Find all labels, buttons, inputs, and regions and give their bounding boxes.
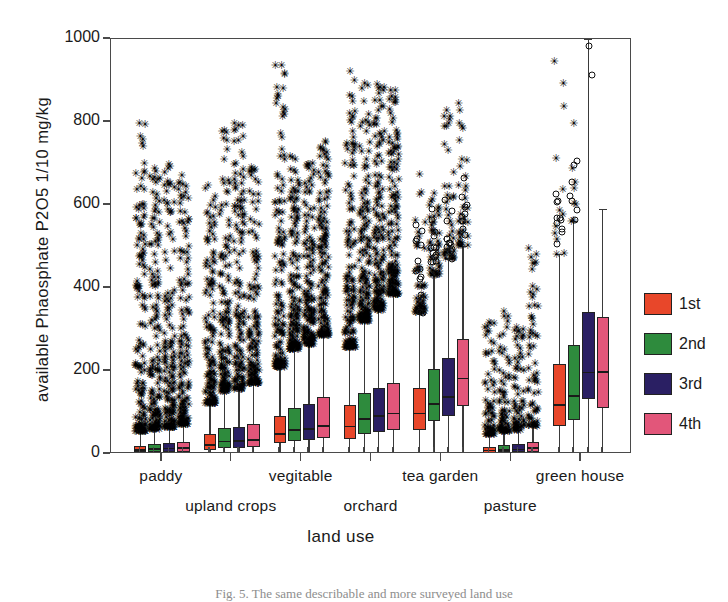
outlier-star: ✳	[303, 162, 312, 168]
median-line	[413, 413, 426, 415]
plot-canvas: ✳✳✳✳✳✳✳✳✳✳✳✳✳✳✳✳✳✳✳✳✳✳✳✳✳✳✳✳✳✳✳✳✳✳✳✳✳✳✳✳…	[111, 39, 630, 452]
outlier-star: ✳	[217, 252, 226, 258]
whisker-upper	[559, 255, 560, 364]
outlier-star: ✳	[221, 310, 230, 316]
outlier-star: ✳	[510, 402, 519, 408]
median-line	[568, 395, 581, 397]
box-upland-crops-3rd	[233, 427, 246, 448]
outlier-star: ✳	[237, 150, 246, 156]
x-tick-mark	[300, 453, 301, 461]
outlier-star: ✳	[179, 332, 188, 338]
outlier-star: ✳	[183, 386, 192, 392]
outlier-star: ✳	[358, 312, 367, 318]
median-line	[527, 447, 540, 449]
outlier-circle	[418, 227, 425, 234]
outlier-star: ✳	[275, 329, 284, 335]
legend-item-4th[interactable]: 4th	[644, 412, 706, 436]
outlier-circle	[432, 228, 439, 235]
outlier-star: ✳	[229, 248, 238, 254]
y-tick-mark	[103, 286, 110, 287]
outlier-star: ✳	[358, 285, 367, 291]
outlier-star: ✳	[274, 230, 283, 236]
outlier-star: ✳	[235, 172, 244, 178]
outlier-star: ✳	[160, 250, 169, 256]
outlier-star: ✳	[359, 216, 368, 222]
outlier-star: ✳	[234, 322, 243, 328]
outlier-star: ✳	[217, 203, 226, 209]
outlier-star: ✳	[163, 166, 172, 172]
outlier-star: ✳	[153, 269, 162, 275]
median-line	[358, 418, 371, 420]
outlier-star: ✳	[523, 387, 532, 393]
outlier-star: ✳	[232, 308, 241, 314]
box-tea-garden-3rd	[442, 358, 455, 416]
outlier-circle	[428, 206, 435, 213]
outlier-star: ✳	[162, 189, 171, 195]
outlier-circle	[461, 174, 468, 181]
x-minor-tick	[278, 447, 279, 453]
outlier-star: ✳	[135, 203, 144, 209]
outlier-star: ✳	[219, 157, 228, 163]
outlier-star: ✳	[250, 233, 259, 239]
outlier-star: ✳	[291, 157, 300, 163]
outlier-star: ✳	[278, 105, 287, 111]
x-minor-tick	[223, 447, 224, 453]
outlier-star: ✳	[289, 168, 298, 174]
outlier-star: ✳	[374, 173, 383, 179]
outlier-circle	[418, 273, 425, 280]
x-tick-label-green-house: green house	[536, 467, 624, 485]
outlier-star: ✳	[346, 340, 355, 346]
outlier-star: ✳	[497, 351, 506, 357]
outlier-star: ✳	[372, 261, 381, 267]
x-minor-tick	[307, 447, 308, 453]
outlier-star: ✳	[316, 330, 325, 336]
outlier-circle	[461, 232, 468, 239]
outlier-star: ✳	[161, 258, 170, 264]
y-tick-mark	[103, 37, 110, 38]
outlier-star: ✳	[254, 222, 263, 228]
outlier-star: ✳	[485, 402, 494, 408]
legend-item-2nd[interactable]: 2nd	[644, 332, 706, 356]
outlier-star: ✳	[454, 121, 463, 127]
outlier-star: ✳	[345, 118, 354, 124]
outlier-star: ✳	[314, 197, 323, 203]
legend-item-1st[interactable]: 1st	[644, 292, 706, 316]
whisker-upper	[378, 311, 379, 389]
outlier-star: ✳	[454, 138, 463, 144]
outlier-star: ✳	[245, 294, 254, 300]
x-minor-tick	[363, 447, 364, 453]
outlier-star: ✳	[527, 267, 536, 273]
whisker-upper	[462, 247, 463, 339]
outlier-star: ✳	[345, 207, 354, 213]
figure-caption: Fig. 5. The same describable and more su…	[0, 586, 728, 602]
outlier-star: ✳	[499, 314, 508, 320]
legend-item-3rd[interactable]: 3rd	[644, 372, 706, 396]
x-minor-tick	[502, 447, 503, 453]
outlier-star: ✳	[529, 344, 538, 350]
box-vegitable-4th	[317, 397, 330, 439]
outlier-circle	[417, 291, 424, 298]
y-tick-label: 200	[46, 360, 100, 378]
outlier-star: ✳	[483, 372, 492, 378]
box-vegitable-3rd	[303, 404, 316, 440]
outlier-star: ✳	[375, 140, 384, 146]
median-line	[177, 447, 190, 449]
outlier-star: ✳	[550, 59, 559, 65]
outlier-star: ✳	[176, 193, 185, 199]
x-minor-tick	[182, 447, 183, 453]
outlier-star: ✳	[415, 172, 424, 178]
median-line	[553, 404, 566, 406]
outlier-star: ✳	[372, 122, 381, 128]
outlier-star: ✳	[526, 403, 535, 409]
median-line	[303, 428, 316, 430]
outlier-star: ✳	[370, 159, 379, 165]
outlier-star: ✳	[203, 183, 212, 189]
outlier-star: ✳	[315, 146, 324, 152]
x-minor-tick	[139, 447, 140, 453]
outlier-star: ✳	[495, 389, 504, 395]
outlier-star: ✳	[216, 332, 225, 338]
x-minor-tick	[392, 447, 393, 453]
outlier-star: ✳	[163, 305, 172, 311]
x-minor-tick	[447, 447, 448, 453]
box-vegitable-1st	[274, 416, 287, 443]
